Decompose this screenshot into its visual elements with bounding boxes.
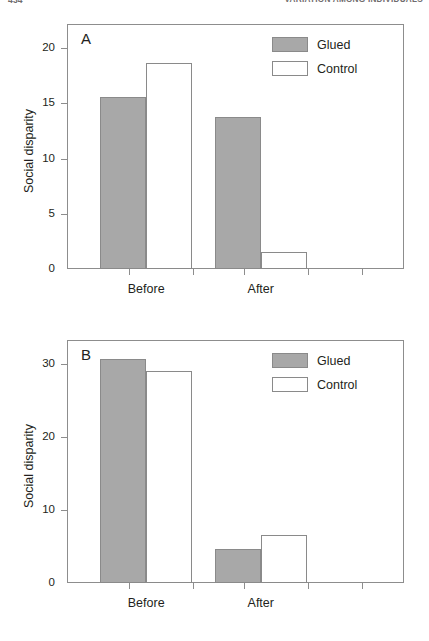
x-axis-tick bbox=[308, 583, 309, 589]
figure-page: 434 VARIATION AMONG INDIVIDUALS ASocial … bbox=[0, 0, 429, 641]
y-axis-tick-label: 20 bbox=[21, 430, 55, 442]
x-axis-label-before: Before bbox=[86, 596, 206, 610]
legend-item-control: Control bbox=[272, 377, 357, 392]
x-axis-label-after: After bbox=[201, 596, 321, 610]
y-axis-tick-label: 10 bbox=[21, 503, 55, 515]
bar-control-after bbox=[261, 252, 307, 269]
y-axis-tick bbox=[61, 364, 68, 365]
legend-swatch-glued bbox=[272, 353, 308, 368]
x-axis-tick bbox=[244, 583, 245, 589]
y-axis-tick-label: 30 bbox=[21, 357, 55, 369]
bar-control-after bbox=[261, 535, 307, 583]
legend-swatch-control bbox=[272, 377, 308, 392]
bar-glued-before bbox=[100, 359, 146, 583]
y-axis-tick bbox=[61, 437, 68, 438]
legend-label-glued: Glued bbox=[317, 354, 350, 368]
bar-control-before bbox=[146, 63, 192, 269]
legend-item-glued: Glued bbox=[272, 353, 350, 368]
panel-b: BSocial disparity0102030BeforeAfterGlued… bbox=[0, 0, 429, 641]
y-axis-tick bbox=[61, 510, 68, 511]
bar-control-before bbox=[146, 371, 192, 583]
y-axis-tick-label: 0 bbox=[21, 576, 55, 588]
x-axis-tick bbox=[193, 583, 194, 589]
bar-glued-after bbox=[215, 117, 261, 269]
legend-label-control: Control bbox=[317, 378, 357, 392]
panel-letter: B bbox=[81, 346, 91, 363]
bar-glued-after bbox=[215, 549, 261, 583]
legend: GluedControl bbox=[272, 353, 402, 401]
x-axis-tick bbox=[129, 583, 130, 589]
x-axis-tick bbox=[362, 583, 363, 589]
bar-glued-before bbox=[100, 97, 146, 269]
